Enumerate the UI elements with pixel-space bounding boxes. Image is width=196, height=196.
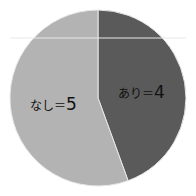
pie-chart: あり＝4なし＝5 <box>0 0 196 196</box>
